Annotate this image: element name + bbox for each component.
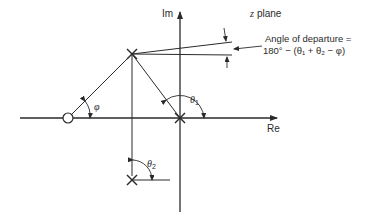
- annotation-line-2: 180° − (θ₁ + θ₂ − φ): [263, 45, 345, 56]
- vector-origin-to-pole: [132, 54, 180, 118]
- imaginary-axis-label: Im: [162, 8, 173, 19]
- phi-label: φ: [94, 101, 100, 112]
- zero-marker: [63, 113, 73, 123]
- vector-zero-to-pole: [72, 54, 132, 114]
- departure-tangent-line: [132, 42, 232, 54]
- phi-angle-arc: [85, 101, 90, 118]
- departure-reference-line: [132, 54, 232, 55]
- theta1-label: θ1: [190, 94, 199, 106]
- theta2-label: θ2: [147, 158, 156, 170]
- annotation-line-1: Angle of departure =: [265, 33, 352, 44]
- callout-arrow: [234, 46, 262, 49]
- real-axis-label: Re: [267, 123, 280, 134]
- plane-label: zplane: [249, 8, 282, 19]
- root-locus-diagram: Im Re zplane Angle of departure = 180° −…: [0, 0, 366, 219]
- angle-indicator-arrow-down: [224, 28, 226, 41]
